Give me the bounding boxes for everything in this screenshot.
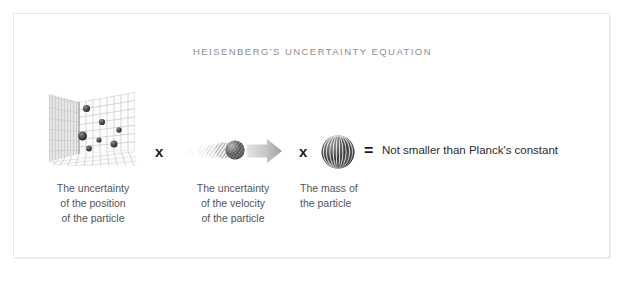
multiplication-operator-2: x [299, 144, 307, 159]
position-uncertainty-illustration [45, 86, 141, 168]
caption-line: The mass of [300, 181, 392, 196]
heisenberg-uncertainty-figure: HEISENBERG'S UNCERTAINTY EQUATION [0, 0, 625, 281]
caption-position: The uncertainty of the position of the p… [40, 181, 146, 226]
caption-line: of the particle [175, 211, 291, 226]
particle [78, 132, 87, 141]
caption-line: of the velocity [175, 196, 291, 211]
blur-sphere-solid [225, 140, 244, 159]
caption-line: The uncertainty [40, 181, 146, 196]
motion-blur-graphic [183, 130, 295, 172]
striped-sphere-graphic [317, 131, 359, 173]
particle [83, 105, 90, 112]
multiplication-operator-1: x [155, 144, 163, 159]
particle [99, 119, 105, 125]
equals-operator: = [364, 143, 373, 159]
particle [116, 127, 121, 132]
mass-illustration [317, 131, 359, 173]
particle [86, 146, 92, 152]
blur-sphere-trail [185, 140, 245, 159]
caption-line: the particle [300, 196, 392, 211]
planck-constant-result-text: Not smaller than Planck's constant [382, 144, 558, 156]
motion-arrow-icon [247, 139, 282, 163]
particle [96, 137, 101, 142]
caption-line: The uncertainty [175, 181, 291, 196]
velocity-uncertainty-illustration [183, 130, 295, 172]
figure-title: HEISENBERG'S UNCERTAINTY EQUATION [0, 46, 625, 57]
particle [111, 141, 118, 148]
caption-line: of the particle [40, 211, 146, 226]
caption-velocity: The uncertainty of the velocity of the p… [175, 181, 291, 226]
caption-mass: The mass of the particle [300, 181, 392, 211]
blur-sphere [185, 147, 195, 157]
perspective-grid-graphic [45, 86, 141, 168]
caption-line: of the position [40, 196, 146, 211]
